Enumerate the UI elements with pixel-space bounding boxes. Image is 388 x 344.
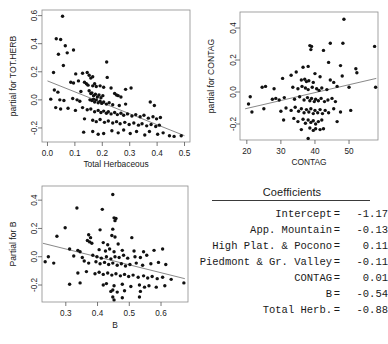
data-point: [112, 298, 115, 301]
data-point: [123, 289, 126, 292]
data-point: [320, 86, 323, 89]
x-axis-tick-label: 30: [276, 147, 286, 156]
x-axis-tick-label: 20: [242, 147, 252, 156]
data-point: [132, 121, 135, 124]
x-axis-tick-label: 0.5: [124, 309, 136, 318]
data-point: [271, 98, 274, 101]
data-point: [335, 85, 338, 88]
data-point: [317, 99, 320, 102]
data-point: [68, 247, 71, 250]
data-point: [312, 112, 315, 115]
coefficients-panel: Coefficients Intercept=-1.17App. Mountai…: [196, 176, 388, 344]
data-point: [124, 88, 127, 91]
coefficient-value: -0.54: [342, 286, 388, 302]
data-point: [54, 106, 57, 109]
data-point: [107, 263, 110, 266]
y-axis-tick-label: 0.2: [31, 222, 40, 234]
coefficient-label: App. Mountain: [196, 222, 332, 238]
x-axis-tick-label: 0.0: [42, 149, 54, 158]
data-point: [262, 107, 265, 110]
data-point: [53, 88, 56, 91]
data-point: [138, 115, 141, 118]
data-point: [307, 79, 310, 82]
data-point: [122, 114, 125, 117]
data-point: [106, 76, 109, 79]
data-point: [97, 93, 100, 96]
data-point: [373, 45, 376, 48]
data-point: [52, 71, 55, 74]
data-point: [113, 111, 116, 114]
data-point: [129, 285, 132, 288]
data-point: [124, 264, 127, 267]
coefficients-divider: [212, 200, 370, 201]
data-point: [109, 86, 112, 89]
data-point: [62, 99, 65, 102]
data-point: [327, 61, 330, 64]
data-point: [284, 106, 287, 109]
data-point: [302, 98, 305, 101]
data-point: [57, 53, 60, 56]
data-point: [107, 110, 110, 113]
data-point: [318, 108, 321, 111]
x-axis-title: CONTAG: [291, 157, 326, 167]
data-point: [279, 110, 282, 113]
data-point: [155, 117, 158, 120]
x-axis-tick-label: 0.3: [124, 149, 136, 158]
data-point: [95, 85, 98, 88]
data-point: [138, 283, 141, 286]
x-axis-title: B: [112, 320, 118, 330]
data-point: [72, 81, 75, 84]
data-point: [306, 137, 309, 140]
data-point: [321, 112, 324, 115]
coefficient-row: Intercept=-1.17: [196, 206, 388, 222]
data-point: [128, 263, 131, 266]
y-axis-tick-label: 0.4: [31, 194, 40, 206]
data-point: [374, 86, 377, 89]
data-point: [72, 254, 75, 257]
data-point: [116, 290, 119, 293]
data-point: [306, 96, 309, 99]
data-point: [75, 206, 78, 209]
data-point: [52, 261, 55, 264]
data-point: [111, 121, 114, 124]
data-point: [78, 281, 81, 284]
data-point: [116, 113, 119, 116]
data-point: [283, 96, 286, 99]
data-point: [94, 93, 97, 96]
data-point: [149, 262, 152, 265]
coefficient-value: -1.17: [342, 206, 388, 222]
data-point: [291, 86, 294, 89]
data-point: [247, 102, 250, 105]
data-point: [79, 90, 82, 93]
x-axis-tick-label: 0.2: [97, 149, 109, 158]
data-point: [107, 101, 110, 104]
data-point: [100, 256, 103, 259]
data-point: [82, 130, 85, 133]
x-axis-tick-label: 0.4: [92, 309, 104, 318]
x-axis-tick-label: 0.1: [69, 149, 81, 158]
data-point: [145, 124, 148, 127]
data-layer: [43, 193, 186, 302]
data-point: [347, 86, 350, 89]
data-point: [168, 134, 171, 137]
data-point: [129, 86, 132, 89]
data-point: [147, 116, 150, 119]
data-point: [64, 44, 67, 47]
data-point: [117, 256, 120, 259]
y-axis-tick-label: 0.0: [31, 251, 40, 263]
data-point: [293, 98, 296, 101]
data-point: [114, 272, 117, 275]
data-point: [169, 278, 172, 281]
data-point: [131, 273, 134, 276]
coefficient-value: -0.88: [342, 303, 388, 319]
coefficient-value: -0.13: [342, 222, 388, 238]
data-point: [96, 133, 99, 136]
data-point: [122, 254, 125, 257]
y-axis-tick-label: 0.0: [31, 94, 40, 106]
coefficient-value: 0.11: [342, 238, 388, 254]
data-point: [76, 271, 79, 274]
data-point: [78, 250, 81, 253]
data-point: [158, 123, 161, 126]
scatter-plot-b: 0.30.40.50.6-0.20.00.20.4BPartial for B: [0, 168, 196, 344]
data-point: [320, 118, 323, 121]
